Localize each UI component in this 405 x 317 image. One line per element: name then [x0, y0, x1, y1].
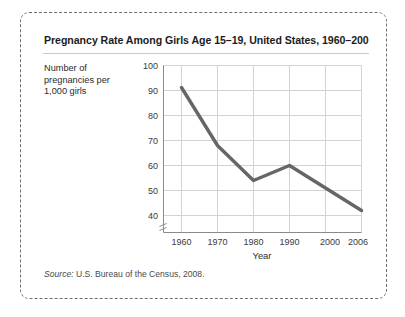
x-tick-labels: 1960 1970 1980 1990 2000 2006: [171, 237, 368, 247]
x-tick-label: 2006: [348, 237, 368, 247]
y-tick-label: 50: [148, 186, 158, 196]
y-tick-label: 80: [148, 111, 158, 121]
y-tick-label: 90: [148, 86, 158, 96]
figure-card: Pregnancy Rate Among Girls Age 15–19, Un…: [30, 22, 380, 291]
chart-plot-area: 100 90 80 70 60 50 40 1960 1970 1980 199…: [125, 60, 370, 260]
x-tick-label: 1990: [279, 237, 299, 247]
x-tick-label: 1980: [243, 237, 263, 247]
source-text: U.S. Bureau of the Census, 2008.: [74, 269, 205, 279]
y-tick-label: 70: [148, 136, 158, 146]
title-divider: [43, 53, 369, 54]
source-note: Source: U.S. Bureau of the Census, 2008.: [44, 269, 205, 279]
y-axis-caption: Number of pregnancies per 1,000 girls: [44, 63, 132, 98]
source-label: Source:: [44, 269, 74, 279]
y-tick-labels: 100 90 80 70 60 50 40: [143, 61, 158, 221]
y-tick-label: 40: [148, 211, 158, 221]
y-tick-label: 60: [148, 161, 158, 171]
x-tick-label: 1960: [171, 237, 191, 247]
x-axis-title: Year: [253, 250, 272, 260]
x-tick-label: 2000: [320, 237, 340, 247]
figure-dashed-frame: Pregnancy Rate Among Girls Age 15–19, Un…: [20, 12, 387, 299]
line-chart-svg: 100 90 80 70 60 50 40 1960 1970 1980 199…: [125, 60, 370, 260]
chart-title: Pregnancy Rate Among Girls Age 15–19, Un…: [44, 34, 384, 46]
y-tick-label: 100: [143, 61, 158, 71]
x-tick-label: 1970: [207, 237, 227, 247]
data-series-line: [182, 88, 362, 211]
